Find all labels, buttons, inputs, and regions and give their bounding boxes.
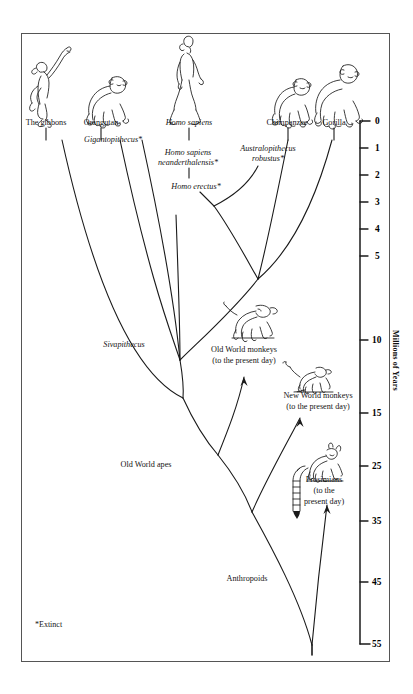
axis-title-millions-of-years: Millions of Years xyxy=(391,330,400,391)
label-anthropoids: Anthropoids xyxy=(227,574,268,584)
label-old-world-monkeys: Old World monkeys xyxy=(211,345,277,355)
axis-tick-15: 15 xyxy=(372,408,381,418)
label-new-world-monkeys: New World monkeys xyxy=(283,391,352,401)
label-prosimians: Prosimians xyxy=(306,475,342,485)
label-orangutan: Orangutan xyxy=(84,118,119,128)
label-the-gibbons: The gibbons xyxy=(26,118,67,128)
axis-tick-5: 5 xyxy=(375,251,380,261)
label-old-world-monkeys-sub: (to the present day) xyxy=(212,356,275,366)
axis-tick-4: 4 xyxy=(375,224,380,234)
primate-evolution-figure: The gibbons Orangutan Homo sapiens Chimp… xyxy=(0,0,413,694)
label-gorilla: Gorilla xyxy=(322,118,345,128)
axis-tick-25: 25 xyxy=(372,461,381,471)
axis-tick-35: 35 xyxy=(372,516,381,526)
label-chimpanzee: Chimpanzee xyxy=(267,118,308,128)
label-new-world-monkeys-sub: (to the present day) xyxy=(286,402,349,412)
axis-tick-10: 10 xyxy=(372,335,381,345)
label-australopithecus-line1: Australopithecus xyxy=(240,144,296,154)
axis-tick-55: 55 xyxy=(372,639,381,649)
label-neanderthalensis-line2: neanderthalensis* xyxy=(158,158,218,168)
label-prosimians-sub1: (to the xyxy=(313,486,334,496)
label-australopithecus-line2: robustus* xyxy=(252,154,284,164)
label-prosimians-sub2: present day) xyxy=(304,497,344,507)
axis-tick-45: 45 xyxy=(372,577,381,587)
label-sivapithecus: Sivapithecus xyxy=(103,340,144,350)
axis-tick-3: 3 xyxy=(375,197,380,207)
label-homo-sapiens: Homo sapiens xyxy=(166,118,213,128)
axis-tick-1: 1 xyxy=(375,143,380,153)
label-homo-erectus: Homo erectus* xyxy=(171,182,221,192)
extinct-footnote: *Extinct xyxy=(35,620,62,629)
label-neanderthalensis-line1: Homo sapiens xyxy=(165,148,212,158)
label-gigantopithecus: Gigantopithecus* xyxy=(84,135,142,145)
axis-tick-2: 2 xyxy=(375,170,380,180)
axis-tick-0: 0 xyxy=(375,116,380,126)
label-old-world-apes: Old World apes xyxy=(120,460,171,470)
